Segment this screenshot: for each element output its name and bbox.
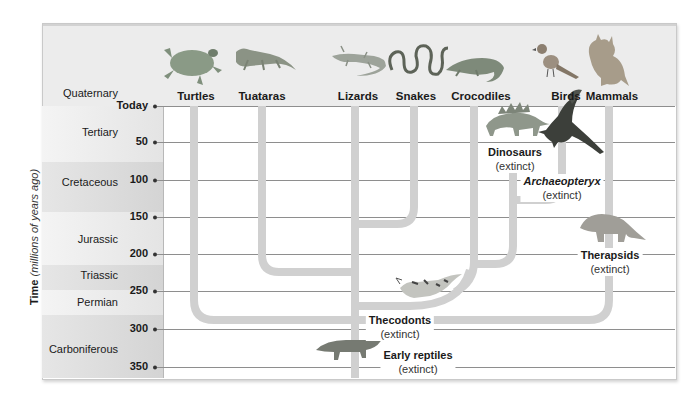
snake-icon	[390, 46, 448, 75]
tick-300: 300	[88, 322, 148, 334]
caption-archaeopteryx-status: (extinct)	[523, 188, 600, 202]
caption-archaeopteryx: Archaeopteryx (extinct)	[520, 174, 603, 202]
caption-early-reptiles-name: Early reptiles	[383, 348, 452, 362]
tick-dots	[153, 105, 157, 370]
tick-100: 100	[88, 173, 148, 185]
lynx-icon	[589, 34, 629, 86]
caption-thecodonts-status: (extinct)	[369, 327, 431, 341]
taxon-mammals: Mammals	[586, 90, 638, 102]
branch-tuataras	[262, 106, 355, 272]
branch-mammals	[355, 106, 609, 320]
caption-dinosaurs-name: Dinosaurs	[488, 145, 542, 159]
branch-turtles	[194, 106, 355, 320]
taxon-tuataras: Tuataras	[238, 90, 285, 102]
bird-icon	[532, 44, 579, 79]
caption-thecodonts: Thecodonts (extinct)	[366, 313, 434, 341]
caption-dinosaurs-status: (extinct)	[488, 159, 542, 173]
tick-150: 150	[88, 210, 148, 222]
caption-archaeopteryx-name: Archaeopteryx	[523, 174, 600, 188]
tick-350: 350	[88, 360, 148, 372]
crocodile-icon	[446, 58, 504, 82]
caption-early-reptiles: Early reptiles (extinct)	[380, 348, 455, 376]
caption-therapsids: Therapsids (extinct)	[578, 248, 643, 276]
caption-therapsids-status: (extinct)	[581, 262, 640, 276]
taxon-birds: Birds	[551, 90, 580, 102]
taxon-turtles: Turtles	[177, 90, 215, 102]
caption-thecodonts-name: Thecodonts	[369, 313, 431, 327]
tick-today: Today	[88, 99, 148, 111]
tick-250: 250	[88, 284, 148, 296]
caption-dinosaurs: Dinosaurs (extinct)	[485, 145, 545, 173]
tick-50: 50	[88, 135, 148, 147]
caption-therapsids-name: Therapsids	[581, 248, 640, 262]
lizard-icon	[332, 46, 386, 76]
taxon-crocodiles: Crocodiles	[451, 90, 510, 102]
caption-early-reptiles-status: (extinct)	[383, 362, 452, 376]
turtle-icon	[164, 48, 222, 85]
taxon-snakes: Snakes	[396, 90, 436, 102]
branch-crocodiles	[455, 106, 474, 292]
tuatara-icon	[236, 48, 296, 70]
stegosaurus-icon	[486, 102, 550, 136]
tick-200: 200	[88, 247, 148, 259]
taxon-lizards: Lizards	[338, 90, 378, 102]
branch-snakes	[355, 106, 414, 224]
